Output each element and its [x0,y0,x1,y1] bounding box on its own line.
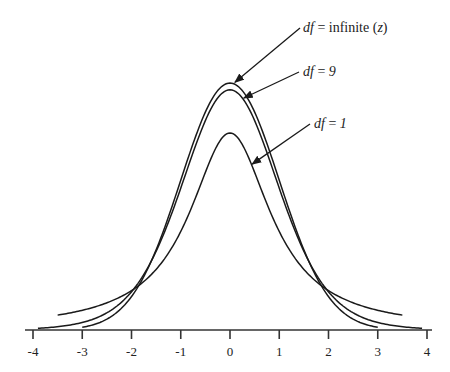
curves-group [38,83,422,328]
annotation-arrow [244,72,299,98]
annotations-group: df = infinite (z)df = 9df = 1 [235,20,388,164]
x-tick-label: -1 [175,344,186,359]
annotation-label: df = 9 [303,64,336,79]
x-tick-label: 2 [325,344,332,359]
annotation-arrow [235,28,300,82]
x-tick-label: 4 [424,344,431,359]
x-tick-label: -4 [28,344,39,359]
x-tick-label: 3 [375,344,382,359]
x-tick-label: 1 [276,344,283,359]
series-line-df9 [38,90,422,328]
x-tick-label: 0 [227,344,234,359]
x-tick-label: -3 [77,344,88,359]
t-distribution-chart: -4-3-2-101234 df = infinite (z)df = 9df … [0,0,450,372]
annotation-label: df = infinite (z) [303,20,388,36]
annotation-arrow [252,124,310,164]
x-axis-ticks: -4-3-2-101234 [28,330,431,359]
annotation-label: df = 1 [314,116,347,131]
x-tick-label: -2 [126,344,137,359]
series-line-df1 [58,133,403,315]
